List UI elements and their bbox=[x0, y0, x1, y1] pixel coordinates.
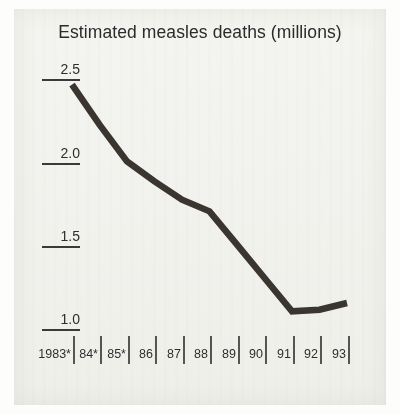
figure-container: Estimated measles deaths (millions) 2.5 … bbox=[0, 0, 400, 414]
x-axis-tick-mark bbox=[348, 336, 350, 364]
x-axis-tick-label-93: 93 bbox=[310, 347, 346, 361]
